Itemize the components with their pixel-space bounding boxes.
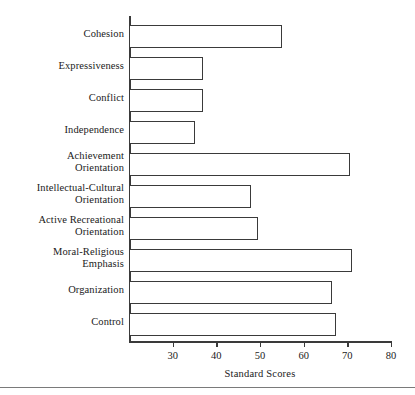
chart-figure: CohesionExpressivenessConflictIndependen… [0,0,415,395]
bar [129,57,203,80]
category-label: Intellectual-Cultural Orientation [2,182,124,206]
bar [129,121,195,144]
x-axis-tick [173,341,174,347]
x-axis-tick-label: 30 [158,349,188,362]
bar [129,153,350,176]
x-axis-tick [260,341,261,347]
category-label: Organization [2,284,124,296]
bar [129,185,251,208]
x-axis-tick-label: 60 [289,349,319,362]
category-label: Conflict [2,92,124,104]
category-label: Cohesion [2,28,124,40]
bar [129,249,352,272]
bar [129,89,203,112]
category-label: Expressiveness [2,60,124,72]
x-axis-tick-label: 40 [201,349,231,362]
x-axis-title: Standard Scores [129,368,391,379]
bar [129,281,332,304]
x-axis-tick [347,341,348,347]
category-label: Independence [2,124,124,136]
x-axis-tick [391,341,392,347]
x-axis-tick-label: 70 [332,349,362,362]
bar [129,217,258,240]
x-axis-tick-label: 50 [245,349,275,362]
x-axis-tick-label: 80 [376,349,406,362]
x-axis-tick [304,341,305,347]
x-axis-tick [216,341,217,347]
bar [129,313,336,336]
category-label: Control [2,316,124,328]
bar [129,25,282,48]
category-label: Achievement Orientation [2,150,124,174]
footer-divider [0,387,415,388]
category-label: Active Recreational Orientation [2,214,124,238]
category-label: Moral-Religious Emphasis [2,246,124,270]
